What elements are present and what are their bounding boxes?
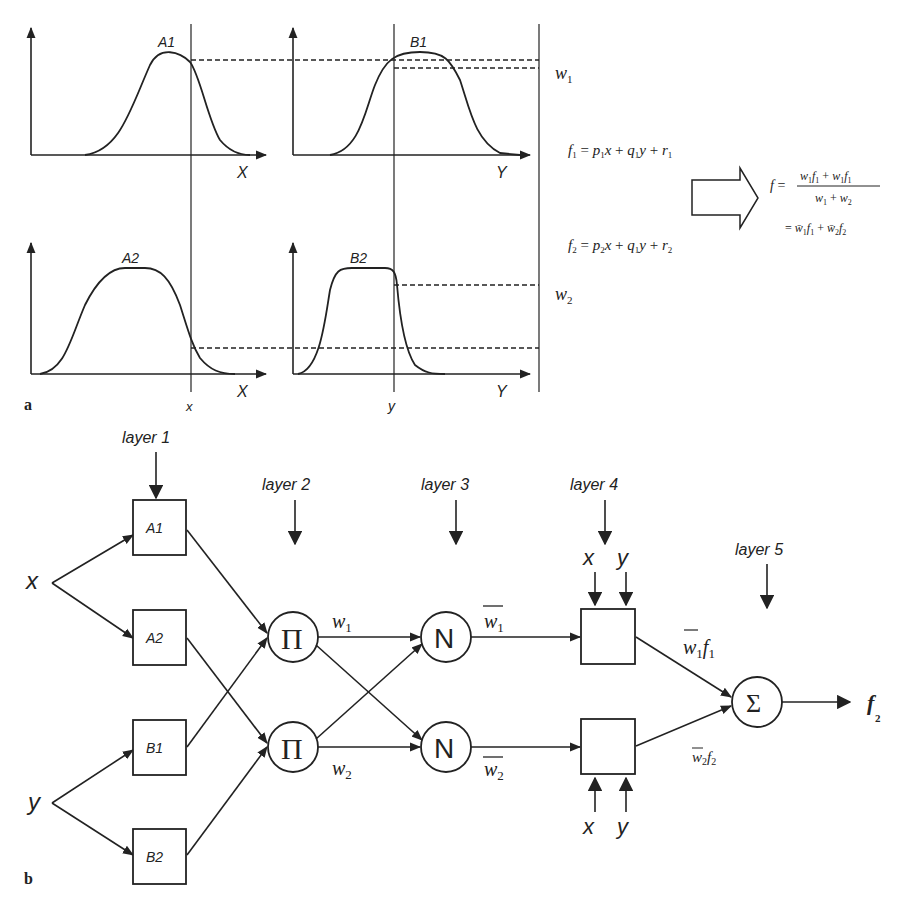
rule-f1: f1 = p1x + q1y + r1 [568, 142, 672, 160]
result-formula: f = w1f1 + w1f1 w1 + w2 = w̄1f1 + w̄2f2 [770, 169, 880, 237]
layer-4-label: layer 4 [570, 476, 618, 493]
svg-text:w1f1 + w1f1: w1f1 + w1f1 [800, 169, 852, 185]
layer4-input-x-top: x [582, 545, 595, 570]
layer4-input-x-bottom: x [582, 814, 595, 839]
input-x: x [25, 567, 39, 594]
mf-plot-b2: B2 Y [293, 243, 530, 400]
axis-label-x-2: X [236, 383, 249, 400]
svg-text:w1: w1 [484, 610, 504, 635]
mf-label-b2: B2 [350, 250, 367, 266]
edge-label-w1: w1 [332, 610, 352, 635]
svg-text:= w̄1f1 + w̄2f2: = w̄1f1 + w̄2f2 [785, 221, 846, 237]
input-y: y [26, 788, 42, 815]
svg-text:A2: A2 [145, 630, 163, 646]
svg-text:Π: Π [281, 622, 303, 655]
svg-text:w1 + w2: w1 + w2 [815, 191, 852, 207]
layer-5-label: layer 5 [735, 541, 783, 558]
panel-b: layer 1 layer 2 layer 3 layer 4 layer 5 … [24, 429, 881, 887]
layer4-input-y-top: y [615, 545, 630, 570]
svg-text:N: N [434, 623, 454, 654]
mf-plot-a2: A2 X [31, 243, 266, 400]
svg-text:w2: w2 [484, 758, 504, 783]
axis-label-x: X [236, 164, 249, 181]
layer4-input-y-bottom: y [615, 814, 630, 839]
node-consequent-1 [581, 609, 635, 664]
svg-text:B2: B2 [146, 849, 163, 865]
svg-text:N: N [434, 733, 454, 764]
input-x-label: x [185, 399, 193, 414]
anfis-diagram: A1 X B1 Y A2 X B2 Y [0, 0, 905, 909]
panel-a: A1 X B1 Y A2 X B2 Y [24, 24, 880, 414]
mf-label-b1: B1 [410, 34, 427, 50]
axis-label-y-2: Y [496, 383, 508, 400]
edge-label-w1bar-f1: w1f1 [683, 636, 715, 661]
w2-label: w2 [555, 284, 573, 306]
layer-1-label: layer 1 [122, 429, 170, 446]
svg-text:Σ: Σ [746, 689, 761, 718]
svg-text:B1: B1 [146, 740, 163, 756]
mf-plot-b1: B1 Y [293, 28, 530, 181]
edge-label-w1bar: w1 [483, 606, 504, 635]
mf-label-a2: A2 [121, 250, 139, 266]
svg-text:A1: A1 [145, 520, 163, 536]
w1-label: w1 [555, 63, 573, 85]
input-y-label: y [387, 398, 396, 414]
output-subscript: 2 [875, 712, 881, 724]
mf-plot-a1: A1 X [31, 28, 266, 181]
edge-label-w2: w2 [332, 757, 352, 782]
layer-2-label: layer 2 [262, 476, 310, 493]
edge-label-w2bar: w2 [483, 757, 504, 783]
mf-label-a1: A1 [157, 34, 175, 50]
panel-a-label: a [24, 396, 32, 413]
svg-text:Π: Π [281, 732, 303, 765]
panel-b-label: b [24, 870, 33, 887]
implication-arrow-icon [692, 168, 758, 228]
svg-text:f =: f = [770, 178, 785, 193]
axis-label-y: Y [496, 164, 508, 181]
layer-3-label: layer 3 [421, 476, 469, 493]
node-consequent-2 [581, 719, 635, 774]
edge-label-w2bar-f2: w2f2 [692, 749, 716, 767]
rule-f2: f2 = p2x + q1y + r2 [568, 237, 672, 255]
